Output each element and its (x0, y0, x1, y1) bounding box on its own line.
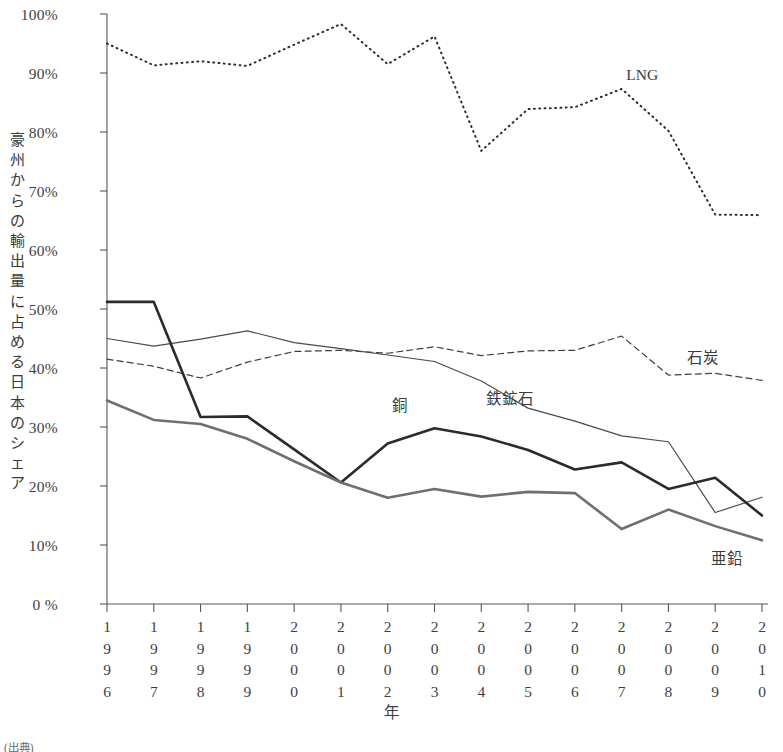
x-axis-title: 年 (0, 700, 783, 722)
series-line-LNG (107, 24, 762, 215)
x-tick-label: 2010 (749, 616, 775, 702)
x-tick-label: 1997 (141, 616, 167, 702)
series-line-石炭 (107, 336, 762, 380)
chart-figure: 豪州からの輸出量に占める日本のシェア 100% 90% 80% 70% 60% … (0, 0, 783, 752)
x-tick-label: 2005 (515, 616, 541, 702)
series-label-石炭: 石炭 (687, 345, 719, 367)
x-tick-label: 2001 (328, 616, 354, 702)
x-tick-label: 2008 (655, 616, 681, 702)
series-label-LNG: LNG (626, 66, 658, 84)
source-note: (出典) (4, 739, 783, 752)
x-tick-label: 1998 (188, 616, 214, 702)
series-label-銅: 銅 (392, 393, 408, 415)
x-tick-label: 2007 (609, 616, 635, 702)
x-tick-label: 2009 (702, 616, 728, 702)
x-tick-label: 2002 (375, 616, 401, 702)
x-tick-label: 2003 (422, 616, 448, 702)
series-line-銅 (107, 302, 762, 516)
x-tick-label: 1999 (234, 616, 260, 702)
series-label-亜鉛: 亜鉛 (711, 546, 743, 568)
x-tick-label: 2004 (468, 616, 494, 702)
series-line-亜鉛 (107, 400, 762, 540)
x-tick-label: 2006 (562, 616, 588, 702)
x-tick-label: 2000 (281, 616, 307, 702)
series-label-鉄鉱石: 鉄鉱石 (486, 386, 534, 408)
x-tick-label: 1996 (94, 616, 120, 702)
